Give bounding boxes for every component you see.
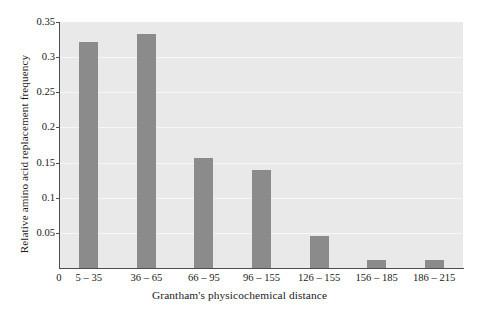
plot-area (60, 22, 463, 268)
y-axis-tick-label: 0.2 (25, 122, 55, 132)
y-axis-tick-label: 0.05 (25, 228, 55, 238)
gridline (60, 163, 463, 164)
y-axis-tick-label: 0.35 (25, 17, 55, 27)
bar (367, 260, 386, 268)
x-axis-tick-labels: 5 – 3536 – 6566 – 9596 – 155126 – 155156… (0, 272, 479, 286)
y-axis-tick-mark (56, 198, 60, 199)
y-axis-tick-mark (56, 92, 60, 93)
bar (194, 158, 213, 268)
gridline (60, 57, 463, 58)
y-axis-tick-mark (56, 22, 60, 23)
bar (425, 260, 444, 268)
bar (137, 34, 156, 268)
x-axis-tick-label: 186 – 215 (413, 272, 455, 284)
bar (310, 236, 329, 268)
x-axis-tick-label: 126 – 155 (298, 272, 340, 284)
bar-chart-figure: Relative amino acid replacement frequenc… (0, 0, 479, 321)
y-axis-tick-label: 0.3 (25, 52, 55, 62)
y-axis-tick-label: 0.25 (25, 87, 55, 97)
bar (252, 170, 271, 268)
x-axis-tick-label: 66 – 95 (188, 272, 220, 284)
x-axis-tick-label: 5 – 35 (76, 272, 102, 284)
y-axis-tick-mark (56, 163, 60, 164)
y-axis-tick-mark (56, 127, 60, 128)
y-axis-tick-label: 0.15 (25, 158, 55, 168)
x-axis-title: Grantham's physicochemical distance (0, 288, 479, 302)
y-axis-tick-label: 0.1 (25, 193, 55, 203)
x-axis-tick-label: 36 – 65 (130, 272, 162, 284)
gridline (60, 127, 463, 128)
x-axis-tick-label: 96 – 155 (243, 272, 280, 284)
gridline (60, 92, 463, 93)
x-axis-tick-label: 156 – 185 (355, 272, 397, 284)
y-axis-tick-mark (56, 57, 60, 58)
y-axis-tick-mark (56, 233, 60, 234)
bar (79, 42, 98, 268)
x-axis-line (59, 268, 464, 269)
